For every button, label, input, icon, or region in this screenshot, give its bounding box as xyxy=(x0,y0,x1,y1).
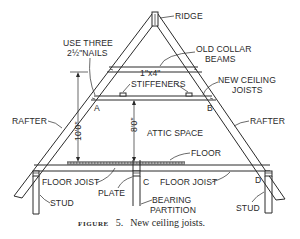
stiffener-block-left xyxy=(120,93,126,96)
caption-prefix: FIGURE xyxy=(78,220,109,228)
bearing-partition-stud xyxy=(133,160,140,206)
new-joists-label-2: JOISTS xyxy=(232,85,263,95)
bearing-label-2: PARTITION xyxy=(150,205,196,215)
stud-left-leader xyxy=(40,195,50,203)
stiffener-block-right xyxy=(186,93,192,96)
rafter-left-leader xyxy=(48,121,62,128)
old-collar-label-1: OLD COLLAR xyxy=(196,44,251,54)
stiffener-leader-left xyxy=(123,84,130,92)
bearing-leader xyxy=(141,200,152,204)
point-a-label: A xyxy=(94,103,100,113)
new-ceiling-joist xyxy=(91,96,216,100)
old-collar-label-2: BEAMS xyxy=(205,54,236,64)
total-height-label: 10'0" xyxy=(73,121,83,141)
point-c-label: C xyxy=(143,177,149,187)
attic-space-label: ATTIC SPACE xyxy=(147,128,203,138)
rafter-right-leader xyxy=(234,121,249,126)
floor-joist-right-label: FLOOR JOIST xyxy=(160,177,218,187)
caption-number: 5. xyxy=(116,217,124,228)
new-joists-leader xyxy=(203,82,218,95)
floor-joist-left-label: FLOOR JOIST xyxy=(42,177,100,187)
stiffeners-label-2: STIFFENERS xyxy=(131,79,186,89)
total-height-dimension xyxy=(70,72,88,162)
floor-label: FLOOR xyxy=(191,148,221,158)
plate-label: PLATE xyxy=(98,188,125,198)
stiffeners-label-1: 1"x4" xyxy=(140,68,160,78)
rafter-right-label: RAFTER xyxy=(250,116,285,126)
bearing-label-1: BEARING xyxy=(152,195,192,205)
nails-label-1: USE THREE xyxy=(63,38,113,48)
stud-right-label: STUD xyxy=(236,203,260,213)
caption-text: New ceiling joists. xyxy=(130,217,205,228)
ceiling-height-label: 8'0" xyxy=(129,117,139,132)
point-d-label: D xyxy=(255,175,261,185)
nails-label-2: 2½"NAILS xyxy=(67,48,108,58)
stud-left-label: STUD xyxy=(50,198,74,208)
new-joists-label-1: NEW CEILING xyxy=(218,75,276,85)
roof-framing-diagram: RIDGE OLD COLLAR BEAMS 1"x4" STIFFENERS … xyxy=(0,0,300,239)
floor-boards xyxy=(67,162,185,164)
plate-leader xyxy=(118,177,132,188)
stud-right-leader xyxy=(252,192,264,202)
rafter-left-label: RAFTER xyxy=(12,116,47,126)
ridge-board xyxy=(152,12,174,26)
old-collar-leader xyxy=(160,52,195,66)
floor-joist xyxy=(34,165,270,171)
point-b-label: B xyxy=(207,103,213,113)
floor-leader xyxy=(170,153,190,160)
ridge-label: RIDGE xyxy=(175,11,203,21)
